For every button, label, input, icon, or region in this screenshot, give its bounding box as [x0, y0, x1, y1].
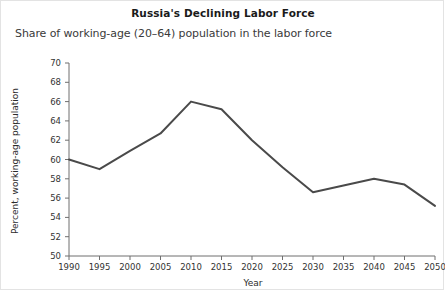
- x-tick-label: 2010: [180, 262, 202, 272]
- x-tick-label: 2025: [272, 262, 294, 272]
- y-axis-ticks: 5052545658606264666870: [50, 58, 69, 261]
- y-tick-label: 52: [50, 232, 61, 242]
- y-tick-label: 50: [50, 251, 61, 261]
- x-tick-label: 1995: [89, 262, 111, 272]
- data-series-line: [69, 102, 435, 206]
- x-tick-label: 2000: [119, 262, 141, 272]
- x-tick-label: 2030: [302, 262, 324, 272]
- x-tick-label: 2035: [333, 262, 355, 272]
- y-axis-title: Percent, working-age population: [10, 88, 20, 234]
- y-tick-label: 58: [50, 174, 61, 184]
- y-tick-label: 62: [50, 135, 61, 145]
- y-tick-label: 64: [50, 116, 61, 126]
- x-tick-label: 1990: [58, 262, 80, 272]
- x-tick-label: 2040: [363, 262, 385, 272]
- x-axis-title: Year: [242, 278, 262, 288]
- y-tick-label: 68: [50, 77, 61, 87]
- x-tick-label: 2005: [150, 262, 172, 272]
- y-tick-label: 54: [50, 212, 61, 222]
- y-tick-label: 56: [50, 193, 61, 203]
- line-chart-plot: 5052545658606264666870 19901995200020052…: [1, 1, 445, 290]
- x-tick-label: 2045: [394, 262, 416, 272]
- x-tick-label: 2020: [241, 262, 263, 272]
- x-tick-label: 2050: [424, 262, 445, 272]
- y-tick-label: 60: [50, 155, 61, 165]
- x-axis-ticks: 1990199520002005201020152020202520302035…: [58, 256, 445, 272]
- y-tick-label: 66: [50, 97, 61, 107]
- x-tick-label: 2015: [211, 262, 233, 272]
- y-tick-label: 70: [50, 58, 61, 68]
